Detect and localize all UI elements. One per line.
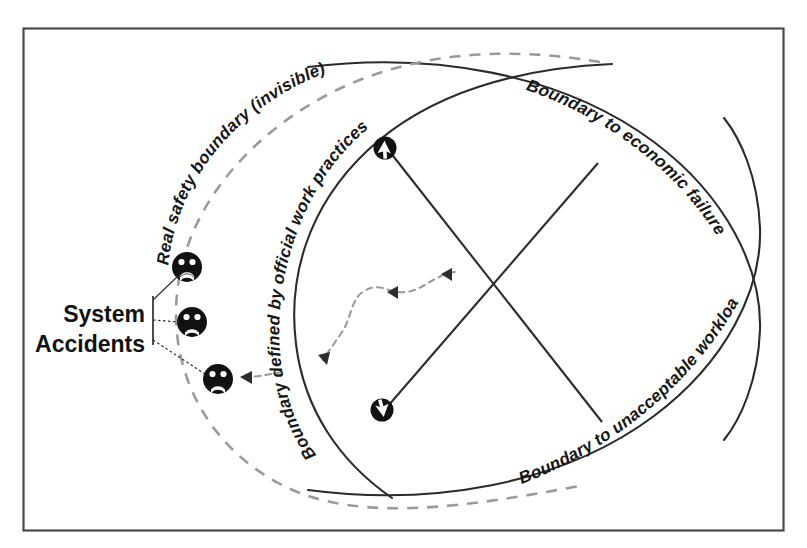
diagonal-line-up-right [388,163,598,406]
border-rectangle [24,29,784,531]
official-work-practices-label: Boundary defined by official work practi… [264,116,372,463]
system-accidents-label-line1: System [63,301,145,327]
official-work-practices-curve [294,64,612,498]
eye-left [209,371,215,377]
eye-right [220,371,226,377]
migration-arrowhead-1 [441,268,452,281]
system-accidents-label-line2: Accidents [35,331,145,357]
migration-arrowhead-2 [387,286,398,299]
accident-face-middle [177,307,207,337]
eye-left [178,259,184,265]
official-work-practices-label-text: Boundary defined by official work practi… [264,116,372,463]
migration-to-accident-arrowhead [240,371,252,384]
eye-left [183,314,189,320]
migration-wavy-path [323,272,455,360]
leader-to-top-face [153,276,178,300]
eye-right [189,259,195,265]
migration-to-boundary-diagram: System Accidents Real safety boundary (i… [0,0,807,548]
figure-border [24,29,784,531]
accident-face-bottom [203,364,233,394]
figure-canvas: System Accidents Real safety boundary (i… [0,0,807,548]
unacceptable-workload-label-text: Boundary to unacceptable workload [0,0,742,488]
migration-arrowhead-3 [318,352,330,365]
eye-right [194,314,200,320]
operating-point-lower [371,398,394,422]
unacceptable-workload-label: Boundary to unacceptable workload [0,0,742,488]
boundary-official-work-practices [294,64,612,498]
